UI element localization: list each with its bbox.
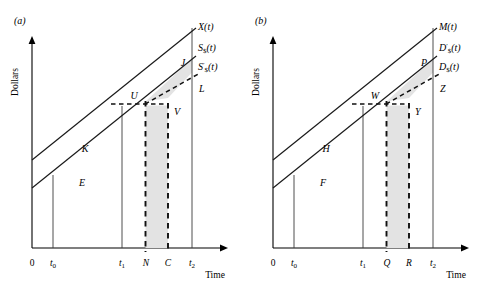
panel-b-point-p: P	[420, 57, 427, 68]
panel-a-tick-t1: t1	[119, 258, 126, 270]
panel-b-label: (b)	[255, 15, 267, 27]
panel-a-point-v: V	[174, 106, 182, 117]
svg-text:D′$(t): D′$(t)	[438, 42, 461, 56]
panel-b-curve-mid	[273, 56, 437, 188]
panel-a-point-j: J	[181, 57, 186, 68]
panel-b-point-w: W	[371, 90, 381, 101]
panel-a-fn-low-arg: (t)	[208, 61, 218, 73]
panel-b-point-z: Z	[440, 83, 446, 94]
panel-b-shaded-band	[387, 106, 410, 249]
panel-a-function-label-low: S′$(t)	[198, 61, 218, 75]
panel-a-curve-mid	[32, 56, 196, 188]
svg-text:D$(t): D$(t)	[438, 61, 460, 74]
panel-a-x-axis-arrow	[220, 245, 228, 252]
panel-b-fn-top-arg: (t)	[447, 21, 457, 33]
panel-a-point-l: L	[198, 83, 205, 94]
panel-b-y-axis-arrow	[270, 36, 277, 44]
panel-a-tick-t0-sub: 0	[53, 262, 57, 270]
panel-a-tick-t2-sub: 2	[192, 262, 196, 270]
panel-b-curves	[273, 28, 437, 188]
panel-a-shaded-band	[146, 106, 169, 249]
panel-a-x-axis-label: Time	[205, 270, 225, 280]
panel-b-chart: (b) Dollars	[241, 0, 483, 285]
figure-container: (a) Dollars	[0, 0, 483, 285]
panel-b-tick-t2-sub: 2	[433, 262, 437, 270]
panel-b-region-lower: F	[319, 177, 327, 188]
panel-b-tick-origin: 0	[271, 258, 276, 268]
panel-a-y-axis-label: Dollars	[10, 68, 20, 96]
panel-a-function-label-top: X(t)	[197, 21, 214, 33]
panel-a-label: (a)	[14, 15, 26, 27]
panel-b-tick-t2: t2	[430, 258, 437, 270]
panel-b-function-label-mid: D′$(t)	[438, 42, 461, 56]
panel-a-region-upper: K	[81, 143, 90, 154]
panel-a-curves	[32, 28, 196, 188]
panel-a-tick-c: C	[165, 258, 172, 268]
panel-a-point-u: U	[130, 90, 138, 101]
panel-b-tick-t1-sub: 1	[363, 262, 367, 270]
panel-b-x-axis-arrow	[461, 245, 469, 252]
panel-a-region-lower: E	[78, 177, 85, 188]
svg-text:S$(t): S$(t)	[198, 42, 217, 55]
panel-a-tick-t2: t2	[189, 258, 196, 270]
panel-a-vertical-lines	[53, 28, 192, 248]
panel-a-chart: (a) Dollars	[0, 0, 242, 285]
panel-b-vertical-lines	[294, 28, 433, 248]
panel-a: (a) Dollars	[0, 0, 242, 285]
panel-b-point-y: Y	[415, 106, 422, 117]
panel-b-function-label-low: D$(t)	[438, 61, 460, 74]
panel-a-tick-t1-sub: 1	[122, 262, 126, 270]
panel-a-tick-t0: t0	[50, 258, 57, 270]
panel-b-tick-r: R	[405, 258, 412, 268]
panel-a-y-axis-arrow	[29, 36, 36, 44]
svg-text:M(t): M(t)	[438, 21, 457, 33]
panel-b: (b) Dollars	[241, 0, 483, 285]
panel-a-fn-mid-arg: (t)	[207, 42, 217, 54]
panel-a-tick-origin: 0	[30, 258, 35, 268]
panel-a-tick-n: N	[142, 258, 150, 268]
panel-b-tick-q: Q	[384, 258, 391, 268]
panel-b-tick-t0-sub: 0	[294, 262, 298, 270]
svg-text:S′$(t): S′$(t)	[198, 61, 218, 75]
panel-b-tick-t1: t1	[360, 258, 367, 270]
panel-b-fn-low-arg: (t)	[450, 61, 460, 73]
panel-b-function-label-top: M(t)	[438, 21, 457, 33]
panel-b-x-axis-label: Time	[446, 270, 466, 280]
panel-b-region-upper: H	[321, 143, 330, 154]
panel-a-function-label-mid: S$(t)	[198, 42, 217, 55]
panel-a-fn-top-arg: (t)	[204, 21, 214, 33]
svg-text:X(t): X(t)	[197, 21, 214, 33]
panel-b-tick-t0: t0	[291, 258, 298, 270]
panel-b-y-axis-label: Dollars	[251, 68, 261, 96]
panel-b-fn-mid-arg: (t)	[451, 42, 461, 54]
